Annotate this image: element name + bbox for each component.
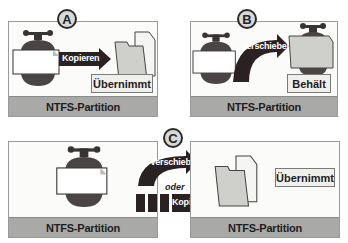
clamped-document-icon	[13, 28, 63, 96]
panel-b: Verschieben Behält B NTFS-Partition	[190, 21, 338, 117]
panel-a: Kopieren Übernimmt A NTFS-Partition	[8, 21, 158, 117]
clamped-document-icon	[55, 144, 113, 218]
ntfs-partition-bar: NTFS-Partition	[191, 217, 339, 237]
arrow-label: Verschieben	[241, 41, 292, 51]
clamped-folder-icon	[289, 22, 335, 80]
ntfs-partition-bar: NTFS-Partition	[9, 217, 157, 237]
panel-c-target: Übernimmt NTFS-Partition	[190, 141, 340, 238]
badge-b: B	[237, 9, 257, 29]
badge-a: A	[57, 9, 77, 29]
badge-c: C	[163, 128, 183, 148]
ntfs-partition-bar: NTFS-Partition	[9, 96, 157, 116]
result-label: Übernimmt	[275, 168, 335, 187]
result-label: Übernimmt	[91, 74, 153, 93]
oder-label: oder	[165, 182, 185, 192]
ntfs-partition-bar: NTFS-Partition	[191, 96, 337, 116]
move-arrow-icon	[136, 148, 198, 186]
move-arrow-icon	[231, 32, 291, 82]
arrow-label: Kopieren	[62, 53, 99, 63]
result-label: Behält	[287, 74, 331, 93]
folder-icon	[213, 156, 259, 208]
